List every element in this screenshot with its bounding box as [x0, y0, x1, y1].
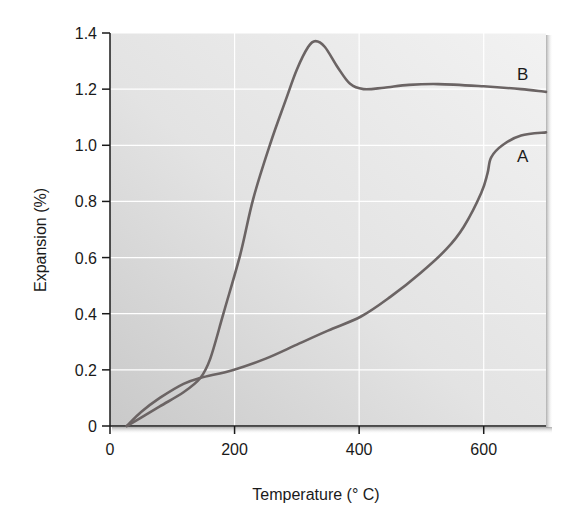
plot-shadow-right	[546, 35, 553, 428]
y-tick-label: 0.8	[75, 193, 97, 210]
y-tick-label: 0.4	[75, 306, 97, 323]
x-tick-label: 400	[346, 441, 373, 458]
x-tick-label: 200	[221, 441, 248, 458]
series-label-b: B	[517, 65, 528, 84]
y-tick-label: 1.4	[75, 25, 97, 42]
y-tick-label: 0.2	[75, 362, 97, 379]
plot-background	[110, 33, 546, 426]
x-tick-label: 0	[106, 441, 115, 458]
y-tick-label: 0.6	[75, 250, 97, 267]
y-tick-label: 0	[88, 418, 97, 435]
x-axis-title: Temperature (° C)	[252, 486, 379, 503]
y-tick-label: 1.0	[75, 137, 97, 154]
plot-shadow-bottom	[112, 427, 552, 434]
x-tick-label: 600	[470, 441, 497, 458]
y-tick-label: 1.2	[75, 81, 97, 98]
series-label-a: A	[517, 147, 529, 166]
chart: 020040060000.20.40.60.81.01.21.4 B A Tem…	[0, 0, 579, 523]
y-axis-title: Expansion (%)	[32, 188, 49, 292]
